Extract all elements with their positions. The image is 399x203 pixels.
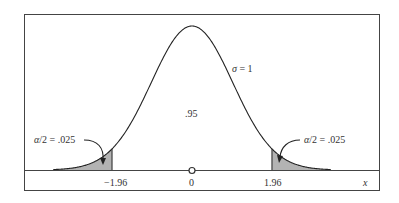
left-tail-label: α/2 = .025: [34, 134, 75, 145]
right-tail-label: α/2 = .025: [304, 134, 345, 145]
center-area-label: .95: [185, 108, 198, 119]
normal-distribution-chart: α/2 = .025 α/2 = .025 σ = 1 .95 −1.96 0 …: [0, 0, 399, 203]
chart-frame: [25, 15, 380, 191]
tick-zero-label: 0: [189, 177, 194, 188]
tick-pos-label: 1.96: [264, 177, 282, 188]
sigma-label: σ = 1: [232, 63, 253, 74]
right-arrow: [280, 140, 300, 157]
tick-neg-label: −1.96: [104, 177, 127, 188]
left-arrow: [84, 140, 103, 160]
x-axis-label: x: [362, 177, 368, 188]
mean-marker: [189, 168, 195, 174]
normal-curve: [53, 26, 330, 170]
